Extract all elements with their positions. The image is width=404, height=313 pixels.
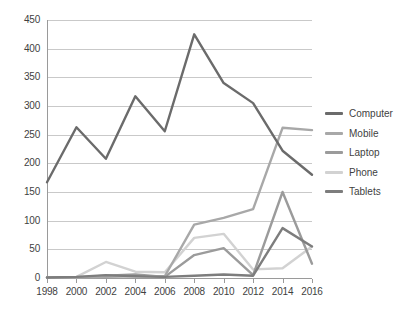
x-axis-tick-mark <box>47 279 48 283</box>
plot-area <box>47 20 312 278</box>
series-line-phone <box>47 234 312 278</box>
x-axis-tick-mark <box>312 279 313 283</box>
y-axis-tick-label: 250 <box>4 130 40 140</box>
x-axis-tick-mark <box>224 279 225 283</box>
y-axis-tick-label: 400 <box>4 44 40 54</box>
y-axis-tick-label: 150 <box>4 187 40 197</box>
y-axis-tick-label: 50 <box>4 244 40 254</box>
legend-label: Tablets <box>349 186 381 197</box>
legend-label: Computer <box>349 108 393 119</box>
legend-label: Phone <box>349 167 378 178</box>
series-line-computer <box>47 34 312 182</box>
x-axis-tick-mark <box>194 279 195 283</box>
x-axis-tick-label: 2016 <box>292 286 332 297</box>
legend-swatch-icon <box>325 171 343 174</box>
legend-swatch-icon <box>325 132 343 135</box>
legend-item-mobile[interactable]: Mobile <box>325 128 393 139</box>
line-chart: 050100150200250300350400450 199820002002… <box>0 0 404 313</box>
y-axis-tick-label: 350 <box>4 72 40 82</box>
y-axis-tick-label: 300 <box>4 101 40 111</box>
x-axis-tick-mark <box>76 279 77 283</box>
y-axis-tick-label: 450 <box>4 15 40 25</box>
legend-item-laptop[interactable]: Laptop <box>325 147 393 158</box>
y-axis-tick-label: 200 <box>4 158 40 168</box>
legend-label: Mobile <box>349 128 378 139</box>
legend-item-tablets[interactable]: Tablets <box>325 186 393 197</box>
x-axis-tick-mark <box>283 279 284 283</box>
y-axis-tick-label: 100 <box>4 216 40 226</box>
x-axis-tick-mark <box>253 279 254 283</box>
legend-item-phone[interactable]: Phone <box>325 167 393 178</box>
x-axis-tick-mark <box>165 279 166 283</box>
series-lines <box>47 20 312 278</box>
legend-label: Laptop <box>349 147 380 158</box>
chart-legend: ComputerMobileLaptopPhoneTablets <box>325 108 393 197</box>
x-axis-tick-mark <box>135 279 136 283</box>
legend-swatch-icon <box>325 151 343 154</box>
legend-swatch-icon <box>325 112 343 115</box>
legend-item-computer[interactable]: Computer <box>325 108 393 119</box>
y-axis-tick-label: 0 <box>4 273 40 283</box>
x-axis-tick-mark <box>106 279 107 283</box>
series-line-laptop <box>47 192 312 277</box>
legend-swatch-icon <box>325 190 343 193</box>
